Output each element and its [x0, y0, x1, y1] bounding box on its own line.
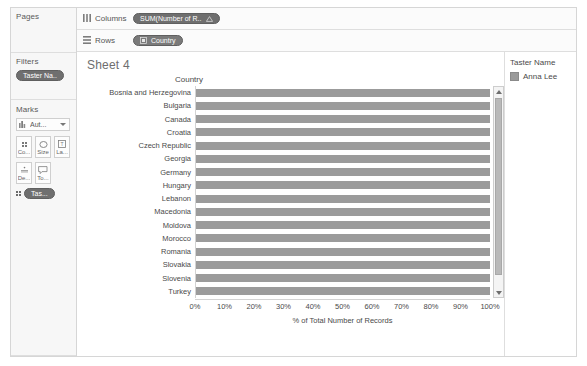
- marks-tooltip-button[interactable]: To...: [35, 162, 51, 184]
- marks-size-button[interactable]: Size: [35, 136, 51, 158]
- bar-row[interactable]: [196, 113, 490, 126]
- detail-icon: [20, 165, 29, 175]
- bar[interactable]: [196, 234, 490, 242]
- marks-label-button[interactable]: T La...: [54, 136, 70, 158]
- axis-tick: 80%: [423, 302, 438, 311]
- columns-pill-sum-number-of-records[interactable]: SUM(Number of R..: [133, 13, 220, 24]
- bar-row[interactable]: [196, 166, 490, 179]
- bar-row[interactable]: [196, 205, 490, 218]
- chart-rows-area: Bosnia and HerzegovinaBulgariaCanadaCroa…: [77, 86, 504, 298]
- bar[interactable]: [196, 181, 490, 189]
- category-label: Slovakia: [77, 258, 195, 271]
- bar[interactable]: [196, 287, 490, 295]
- bar-row[interactable]: [196, 99, 490, 112]
- marks-type-label: Aut...: [30, 121, 57, 128]
- axis-tick: 10%: [217, 302, 232, 311]
- bar[interactable]: [196, 155, 490, 163]
- pages-shelf[interactable]: Pages: [11, 8, 76, 53]
- bar-row[interactable]: [196, 258, 490, 271]
- marks-detail-label: De...: [18, 175, 31, 182]
- bar-row[interactable]: [196, 285, 490, 298]
- bar-row[interactable]: [196, 179, 490, 192]
- bar-row[interactable]: [196, 152, 490, 165]
- legend-item-anna-lee[interactable]: Anna Lee: [510, 72, 571, 81]
- category-label: Czech Republic: [77, 139, 195, 152]
- bar-row[interactable]: [196, 219, 490, 232]
- filters-shelf-title: Filters: [16, 57, 71, 66]
- scrollbar-thumb[interactable]: [495, 98, 502, 275]
- color-dots-icon: [22, 139, 27, 149]
- size-icon: [39, 139, 48, 149]
- bar[interactable]: [196, 248, 490, 256]
- bar[interactable]: [196, 261, 490, 269]
- axis-tick: 50%: [335, 302, 350, 311]
- category-label: Hungary: [77, 179, 195, 192]
- category-label: Germany: [77, 166, 195, 179]
- category-label: Moldova: [77, 219, 195, 232]
- rows-shelf-label-group: Rows: [83, 36, 127, 46]
- visualization-pane[interactable]: Sheet 4 Country Bosnia and HerzegovinaBu…: [77, 52, 504, 356]
- bar-row[interactable]: [196, 86, 490, 99]
- sidebar: Pages Filters Taster Na.. Marks Aut...: [11, 8, 77, 356]
- marks-color-pill-label: Tas...: [31, 190, 48, 197]
- category-label: Bosnia and Herzegovina: [77, 86, 195, 99]
- bar-row[interactable]: [196, 232, 490, 245]
- vertical-scrollbar[interactable]: [493, 86, 504, 298]
- axis-left-pad: [77, 299, 195, 314]
- label-icon: T: [58, 139, 66, 149]
- bar[interactable]: [196, 208, 490, 216]
- category-label: Macedonia: [77, 205, 195, 218]
- bar[interactable]: [196, 115, 490, 123]
- marks-type-selector[interactable]: Aut...: [16, 118, 70, 131]
- category-label: Croatia: [77, 126, 195, 139]
- filter-pill-label: Taster Na..: [23, 72, 57, 79]
- row-field-header: Country: [77, 75, 301, 84]
- bar-row[interactable]: [196, 245, 490, 258]
- category-label: Canada: [77, 113, 195, 126]
- axis-tick: 30%: [276, 302, 291, 311]
- filter-pill-taster-name[interactable]: Taster Na..: [16, 70, 64, 81]
- plot-bars[interactable]: [195, 86, 490, 298]
- scrollbar-up-button[interactable]: [494, 87, 503, 96]
- rows-pill-country[interactable]: Country: [133, 35, 183, 46]
- value-axis: 0%10%20%30%40%50%60%70%80%90%100%: [77, 299, 504, 314]
- marks-buttons-row-1: Co... Size T: [16, 136, 71, 158]
- chevron-down-icon: [496, 291, 502, 295]
- marks-assignment-row: Tas...: [16, 188, 71, 199]
- chevron-down-icon[interactable]: [60, 123, 66, 126]
- main-area: Columns SUM(Number of R..: [77, 8, 576, 356]
- marks-tooltip-label: To...: [37, 175, 48, 182]
- bar[interactable]: [196, 89, 490, 97]
- scrollbar-track[interactable]: [494, 96, 503, 288]
- legend-title: Taster Name: [510, 58, 571, 67]
- columns-shelf[interactable]: Columns SUM(Number of R..: [77, 8, 576, 30]
- category-label: Slovenia: [77, 272, 195, 285]
- marks-color-button[interactable]: Co...: [16, 136, 32, 158]
- marks-detail-button[interactable]: De...: [16, 162, 32, 184]
- category-label: Turkey: [77, 285, 195, 298]
- columns-shelf-label-group: Columns: [83, 14, 127, 24]
- bar[interactable]: [196, 128, 490, 136]
- bar[interactable]: [196, 168, 490, 176]
- bar[interactable]: [196, 221, 490, 229]
- color-legend[interactable]: Taster Name Anna Lee: [504, 52, 576, 356]
- axis-tick: 70%: [394, 302, 409, 311]
- marks-card: Marks Aut... Co...: [11, 100, 76, 356]
- scrollbar-down-button[interactable]: [494, 288, 503, 297]
- bar[interactable]: [196, 142, 490, 150]
- bar[interactable]: [196, 102, 490, 110]
- bar[interactable]: [196, 195, 490, 203]
- bar-row[interactable]: [196, 139, 490, 152]
- legend-swatch: [510, 72, 519, 81]
- marks-color-pill-taster-name[interactable]: Tas...: [24, 188, 55, 199]
- bar[interactable]: [196, 274, 490, 282]
- marks-color-label: Co...: [18, 149, 31, 156]
- marks-card-title: Marks: [16, 105, 71, 114]
- bar-row[interactable]: [196, 272, 490, 285]
- axis-tick-labels: 0%10%20%30%40%50%60%70%80%90%100%: [195, 299, 490, 314]
- rows-shelf[interactable]: Rows Country: [77, 30, 576, 52]
- filters-shelf[interactable]: Filters Taster Na..: [11, 53, 76, 100]
- bar-row[interactable]: [196, 192, 490, 205]
- bar-row[interactable]: [196, 126, 490, 139]
- legend-item-label: Anna Lee: [523, 72, 557, 81]
